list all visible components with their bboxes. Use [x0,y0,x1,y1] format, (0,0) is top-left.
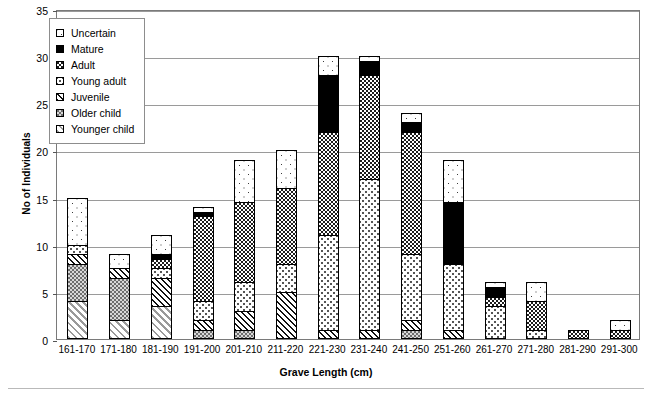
y-axis-tick-label: 25 [36,100,48,111]
bar-segment-juvenile[interactable] [318,330,339,339]
bar-211-220[interactable] [276,150,297,339]
bar-segment-adult[interactable] [151,259,172,268]
bar-segment-uncertain[interactable] [359,56,380,61]
bar-segment-adult[interactable] [318,132,339,236]
legend-item-older-child[interactable]: Older child [56,105,134,121]
y-axis-tick [53,341,57,342]
legend-item-younger-child[interactable]: Younger child [56,121,134,137]
bar-segment-adult[interactable] [485,297,506,306]
legend-swatch-icon [56,61,64,69]
bar-segment-adult[interactable] [276,188,297,263]
bar-181-190[interactable] [151,235,172,339]
bar-segment-mature[interactable] [359,61,380,75]
bar-segment-young-adult[interactable] [526,330,547,339]
bar-segment-juvenile[interactable] [234,311,255,330]
x-axis-tick-labels: 161-170171-180181-190191-200201-210211-2… [56,344,640,358]
x-axis-tick-label: 291-300 [598,344,640,358]
bar-segment-juvenile[interactable] [67,254,88,263]
bar-segment-younger-child[interactable] [67,301,88,339]
bar-segment-younger-child[interactable] [151,306,172,339]
bar-segment-uncertain[interactable] [151,235,172,254]
bar-271-280[interactable] [526,282,547,339]
bar-segment-adult[interactable] [610,330,631,339]
bar-segment-older-child[interactable] [401,330,422,339]
bar-segment-juvenile[interactable] [359,330,380,339]
bar-281-290[interactable] [568,330,589,339]
bar-segment-juvenile[interactable] [276,292,297,339]
bar-segment-young-adult[interactable] [67,245,88,254]
x-axis-tick-label: 211-220 [265,344,307,358]
bar-251-260[interactable] [443,160,464,339]
x-axis-tick-label: 181-190 [139,344,181,358]
bar-segment-uncertain[interactable] [526,282,547,301]
bar-171-180[interactable] [109,254,130,339]
bar-241-250[interactable] [401,113,422,339]
bar-segment-uncertain[interactable] [67,198,88,245]
bar-segment-older-child[interactable] [234,330,255,339]
legend-item-uncertain[interactable]: Uncertain [56,25,134,41]
bar-segment-uncertain[interactable] [193,207,214,212]
bar-segment-young-adult[interactable] [276,264,297,292]
bar-segment-adult[interactable] [193,216,214,301]
bar-segment-young-adult[interactable] [234,282,255,310]
bar-segment-young-adult[interactable] [318,235,339,329]
bar-segment-mature[interactable] [151,254,172,259]
bar-segment-adult[interactable] [568,330,589,339]
bar-segment-older-child[interactable] [193,330,214,339]
bar-segment-older-child[interactable] [67,264,88,302]
bar-segment-uncertain[interactable] [610,320,631,329]
bar-segment-uncertain[interactable] [109,254,130,268]
bar-segment-adult[interactable] [526,301,547,329]
legend-item-young-adult[interactable]: Young adult [56,73,134,89]
legend-item-label: Younger child [71,124,134,135]
bar-segment-juvenile[interactable] [443,330,464,339]
legend-swatch-icon [56,77,64,85]
bar-segment-mature[interactable] [485,287,506,296]
bar-segment-uncertain[interactable] [276,150,297,188]
bar-segment-juvenile[interactable] [401,320,422,329]
bar-201-210[interactable] [234,160,255,339]
bar-231-240[interactable] [359,56,380,339]
bar-segment-younger-child[interactable] [109,320,130,339]
bar-segment-older-child[interactable] [109,278,130,320]
y-axis-tick-label: 30 [36,53,48,64]
bar-161-170[interactable] [67,198,88,339]
bar-segment-mature[interactable] [443,202,464,263]
chart-container: No of Individuals 05101520253035 Uncerta… [0,0,652,395]
bar-segment-young-adult[interactable] [401,254,422,320]
bar-segment-uncertain[interactable] [443,160,464,202]
bar-191-200[interactable] [193,207,214,339]
bar-segment-young-adult[interactable] [193,301,214,320]
x-axis-tick-label: 171-180 [98,344,140,358]
y-axis-tick-label: 10 [36,241,48,252]
bar-segment-adult[interactable] [359,75,380,179]
x-axis-tick-label: 191-200 [181,344,223,358]
bar-segment-juvenile[interactable] [109,268,130,277]
legend-item-mature[interactable]: Mature [56,41,134,57]
bar-291-300[interactable] [610,320,631,339]
bar-segment-juvenile[interactable] [151,278,172,306]
bar-segment-young-adult[interactable] [359,179,380,330]
bar-segment-adult[interactable] [401,132,422,255]
footer-divider [8,388,644,389]
bar-segment-uncertain[interactable] [401,113,422,122]
x-axis-title: Grave Length (cm) [0,366,652,378]
bar-segment-young-adult[interactable] [151,268,172,277]
bar-segment-young-adult[interactable] [485,306,506,339]
bar-segment-uncertain[interactable] [234,160,255,202]
bar-segment-uncertain[interactable] [318,56,339,75]
x-axis-tick-label: 201-210 [223,344,265,358]
legend-swatch-icon [56,125,64,133]
x-axis-tick-label: 261-270 [473,344,515,358]
bar-segment-adult[interactable] [234,202,255,282]
bar-segment-juvenile[interactable] [193,320,214,329]
bar-segment-uncertain[interactable] [485,282,506,287]
bar-segment-mature[interactable] [318,75,339,132]
bar-segment-young-adult[interactable] [443,264,464,330]
bar-segment-mature[interactable] [401,122,422,131]
bar-221-230[interactable] [318,56,339,339]
legend-item-juvenile[interactable]: Juvenile [56,89,134,105]
bar-261-270[interactable] [485,282,506,339]
bar-segment-mature[interactable] [193,212,214,217]
legend-item-adult[interactable]: Adult [56,57,134,73]
